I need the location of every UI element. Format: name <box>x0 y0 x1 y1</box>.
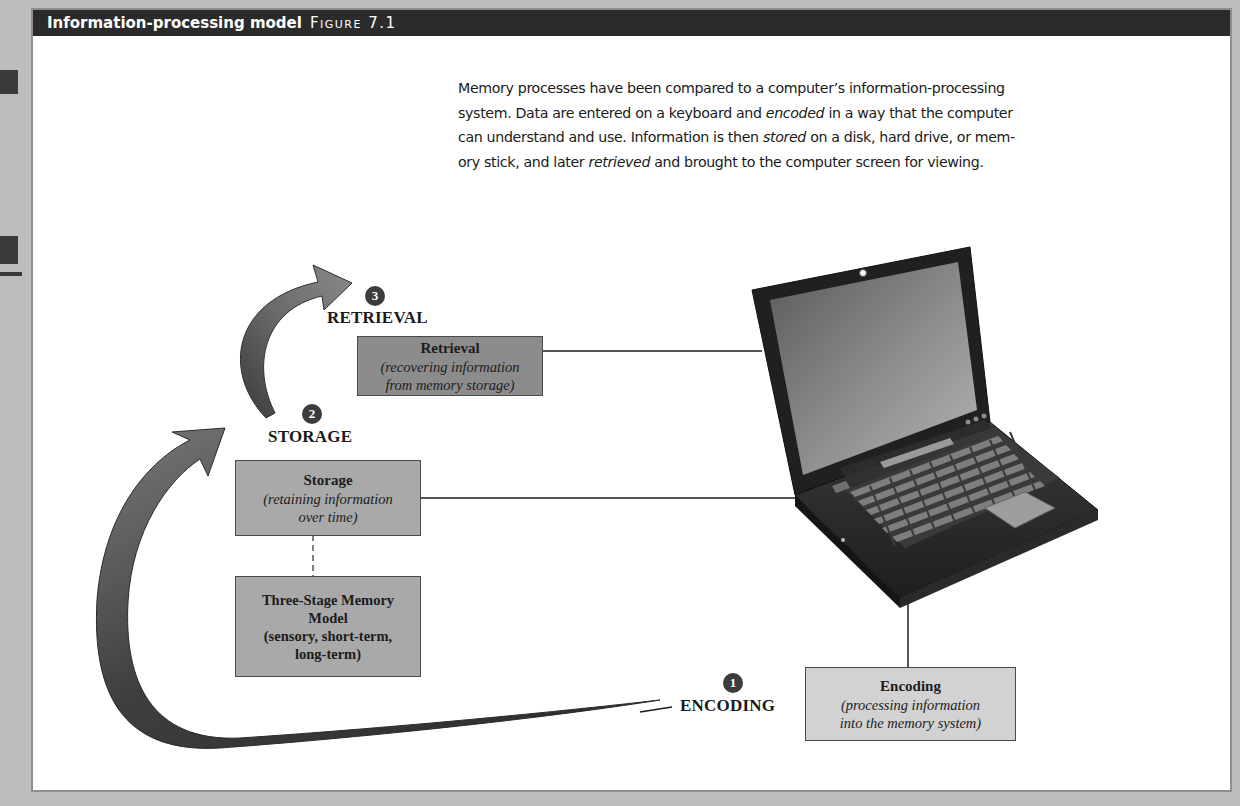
encoding-label-leader-line <box>640 707 672 712</box>
storage-box-title: Storage <box>236 471 420 490</box>
storage-box-desc: (retaining information <box>236 490 420 508</box>
storage-box: Storage (retaining information over time… <box>235 460 421 536</box>
laptop-icon <box>752 247 1098 608</box>
retrieval-box-title: Retrieval <box>358 339 542 358</box>
model-box-line: (sensory, short-term, <box>236 627 420 645</box>
encoding-box-desc: (processing information <box>806 696 1015 714</box>
storage-to-retrieval-arrow-icon <box>240 265 352 418</box>
model-box-line: Model <box>236 609 420 627</box>
storage-step-badge: 2 <box>302 404 322 424</box>
storage-box-desc: over time) <box>236 508 420 526</box>
encoding-stage-label: ENCODING <box>680 696 775 716</box>
encoding-box-desc: into the memory system) <box>806 714 1015 732</box>
retrieval-box-desc: (recovering information <box>358 358 542 376</box>
encoding-box: Encoding (processing information into th… <box>805 667 1016 741</box>
retrieval-box-desc: from memory storage) <box>358 376 542 394</box>
retrieval-stage-label: RETRIEVAL <box>327 308 428 328</box>
retrieval-box: Retrieval (recovering information from m… <box>357 336 543 396</box>
retrieval-step-badge: 3 <box>365 286 385 306</box>
encoding-step-badge: 1 <box>723 673 743 693</box>
three-stage-model-box: Three-Stage Memory Model (sensory, short… <box>235 576 421 677</box>
model-box-line: Three-Stage Memory <box>236 591 420 609</box>
model-box-line: long-term) <box>236 645 420 663</box>
encoding-box-title: Encoding <box>806 677 1015 696</box>
diagram-graphics <box>0 0 1240 806</box>
storage-stage-label: STORAGE <box>268 427 352 447</box>
